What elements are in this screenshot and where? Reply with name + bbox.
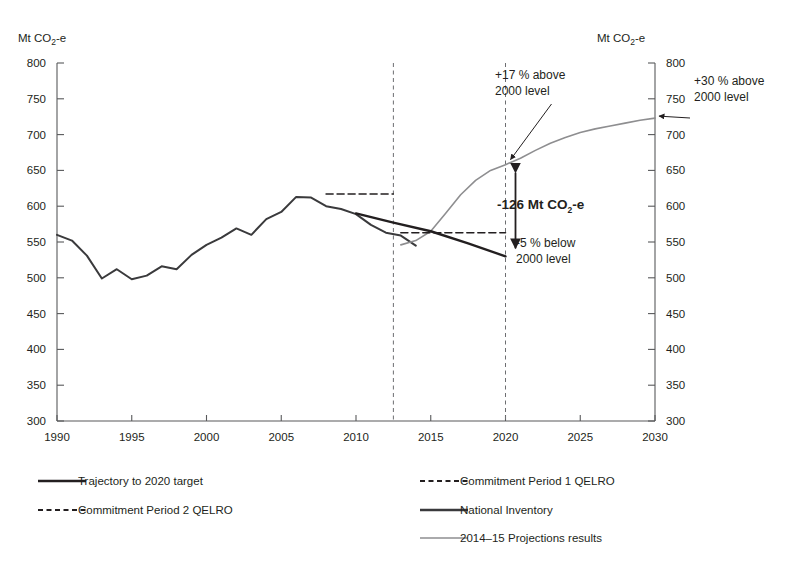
y-tick-label-right: 450: [666, 308, 685, 320]
y-tick-label-right: 300: [666, 415, 685, 427]
annotation-2020-line2: 2000 level: [495, 84, 550, 98]
x-tick-label: 1990: [44, 431, 70, 443]
y-tick-label-right: 700: [666, 129, 685, 141]
y-tick-label-left: 300: [27, 415, 46, 427]
y-tick-label-right: 650: [666, 164, 685, 176]
annotation-2030-line1: +30 % above: [694, 74, 765, 88]
y-tick-label-right: 400: [666, 343, 685, 355]
x-tick-label: 2020: [493, 431, 519, 443]
chart-legend: Trajectory to 2020 targetCommitment Peri…: [38, 475, 615, 544]
y-axis-left: 300350400450500550600650700750800: [27, 57, 64, 427]
legend-item: 2014–15 Projections results: [420, 532, 602, 544]
y-tick-label-left: 700: [27, 129, 46, 141]
y-tick-label-right: 350: [666, 379, 685, 391]
y-tick-label-left: 450: [27, 308, 46, 320]
legend-label: Commitment Period 2 QELRO: [78, 504, 233, 516]
y-tick-label-left: 800: [27, 57, 46, 69]
x-tick-label: 2025: [567, 431, 593, 443]
y-tick-label-left: 750: [27, 93, 46, 105]
y-tick-label-right: 500: [666, 272, 685, 284]
annotation-trajectory-line2: 2000 level: [516, 252, 571, 266]
legend-label: Trajectory to 2020 target: [78, 475, 204, 487]
legend-label: National Inventory: [460, 504, 553, 516]
y-tick-label-left: 500: [27, 272, 46, 284]
annotation-abatement-gap: -126 Mt CO2-e: [497, 197, 585, 215]
y-axis-unit-left: Mt CO2-e: [18, 32, 66, 47]
emissions-projection-chart: Mt CO2-e Mt CO2-e 3003504004505005506006…: [0, 0, 800, 568]
y-tick-label-right: 550: [666, 236, 685, 248]
legend-item: Trajectory to 2020 target: [38, 475, 204, 487]
series-line-2: [356, 213, 506, 256]
x-tick-label: 1995: [119, 431, 145, 443]
annotation-layer: [511, 104, 691, 248]
legend-label: 2014–15 Projections results: [460, 532, 602, 544]
series-line-1: [401, 118, 655, 245]
x-tick-label: 2000: [194, 431, 220, 443]
y-tick-label-left: 550: [27, 236, 46, 248]
x-tick-label: 2015: [418, 431, 444, 443]
series-line-0: [57, 197, 416, 279]
leader-line-2020-projection: [511, 104, 552, 160]
chart-canvas: Mt CO2-e Mt CO2-e 3003504004505005506006…: [0, 0, 800, 568]
y-tick-label-left: 650: [27, 164, 46, 176]
x-tick-label: 2030: [642, 431, 668, 443]
x-tick-label: 2010: [343, 431, 369, 443]
x-tick-label: 2005: [268, 431, 294, 443]
y-tick-label-right: 600: [666, 200, 685, 212]
y-axis-unit-right: Mt CO2-e: [597, 32, 645, 47]
x-axis: 199019952000200520102015202020252030: [44, 415, 668, 443]
y-axis-right: 300350400450500550600650700750800: [648, 57, 685, 427]
leader-line-2030-projection: [659, 116, 690, 118]
y-tick-label-left: 350: [27, 379, 46, 391]
y-tick-label-left: 400: [27, 343, 46, 355]
legend-item: Commitment Period 2 QELRO: [38, 504, 233, 516]
annotation-2030-line2: 2000 level: [694, 90, 749, 104]
y-tick-label-right: 800: [666, 57, 685, 69]
legend-item: National Inventory: [420, 504, 553, 516]
y-tick-label-right: 750: [666, 93, 685, 105]
legend-item: Commitment Period 1 QELRO: [420, 475, 615, 487]
annotation-2020-line1: +17 % above: [495, 68, 566, 82]
legend-label: Commitment Period 1 QELRO: [460, 475, 615, 487]
y-tick-label-left: 600: [27, 200, 46, 212]
annotation-trajectory-line1: -5 % below: [516, 236, 576, 250]
